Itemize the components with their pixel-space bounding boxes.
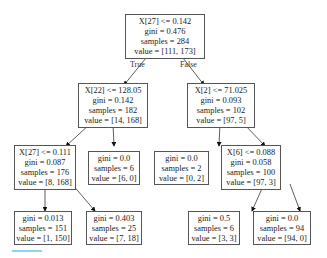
node-samples: samples = 102: [188, 106, 254, 116]
node-samples: samples = 151: [15, 224, 71, 234]
node-gini: gini = 0.058: [222, 158, 280, 168]
node-gini: gini = 0.403: [87, 214, 141, 224]
node-gini: gini = 0.0: [89, 154, 139, 164]
node-gini: gini = 0.0: [155, 154, 208, 164]
tree-node-root: X[27] <= 0.142 gini = 0.476 samples = 28…: [125, 14, 205, 59]
node-value: value = [7, 18]: [87, 234, 141, 244]
tree-node-7: gini = 0.013 samples = 151 value = [1, 1…: [14, 211, 72, 245]
node-split: X[27] <= 0.111: [15, 148, 75, 158]
node-samples: samples = 176: [15, 168, 75, 178]
node-gini: gini = 0.087: [15, 158, 75, 168]
node-value: value = [111, 173]: [126, 47, 204, 57]
accent-underline: [12, 250, 42, 252]
node-samples: samples = 94: [254, 224, 310, 234]
node-samples: samples = 100: [222, 168, 280, 178]
tree-node-8: gini = 0.403 samples = 25 value = [7, 18…: [86, 211, 142, 245]
tree-node-1: X[22] <= 128.05 gini = 0.142 samples = 1…: [78, 83, 148, 128]
node-value: value = [8, 168]: [15, 178, 75, 188]
node-samples: samples = 6: [89, 164, 139, 174]
node-value: value = [97, 5]: [188, 116, 254, 126]
tree-node-10: gini = 0.0 samples = 94 value = [94, 0]: [253, 211, 311, 245]
tree-node-3: X[27] <= 0.111 gini = 0.087 samples = 17…: [14, 145, 76, 190]
node-split: X[6] <= 0.088: [222, 148, 280, 158]
node-samples: samples = 284: [126, 37, 204, 47]
node-gini: gini = 0.0: [254, 214, 310, 224]
edge-label-false: False: [180, 60, 197, 69]
tree-node-2: X[2] <= 71.025 gini = 0.093 samples = 10…: [187, 83, 255, 128]
node-gini: gini = 0.013: [15, 214, 71, 224]
node-value: value = [14, 168]: [79, 116, 147, 126]
node-samples: samples = 25: [87, 224, 141, 234]
node-value: value = [1, 150]: [15, 234, 71, 244]
node-split: X[22] <= 128.05: [79, 86, 147, 96]
node-value: value = [3, 3]: [189, 234, 239, 244]
tree-node-6: X[6] <= 0.088 gini = 0.058 samples = 100…: [221, 145, 281, 190]
node-value: value = [6, 0]: [89, 174, 139, 184]
node-value: value = [97, 3]: [222, 178, 280, 188]
node-split: X[2] <= 71.025: [188, 86, 254, 96]
tree-node-9: gini = 0.5 samples = 6 value = [3, 3]: [188, 211, 240, 245]
node-gini: gini = 0.093: [188, 96, 254, 106]
node-samples: samples = 6: [189, 224, 239, 234]
tree-node-4: gini = 0.0 samples = 6 value = [6, 0]: [88, 151, 140, 185]
node-samples: samples = 2: [155, 164, 208, 174]
node-gini: gini = 0.142: [79, 96, 147, 106]
node-samples: samples = 182: [79, 106, 147, 116]
edge-label-true: True: [130, 60, 145, 69]
node-gini: gini = 0.5: [189, 214, 239, 224]
node-value: value = [0, 2]: [155, 174, 208, 184]
node-split: X[27] <= 0.142: [126, 17, 204, 27]
node-gini: gini = 0.476: [126, 27, 204, 37]
node-value: value = [94, 0]: [254, 234, 310, 244]
tree-node-5: gini = 0.0 samples = 2 value = [0, 2]: [154, 151, 209, 185]
